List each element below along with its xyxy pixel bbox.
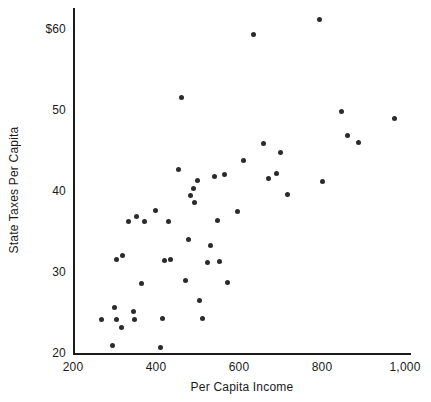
data-point — [320, 179, 325, 184]
data-point — [142, 219, 147, 224]
data-point — [241, 158, 246, 163]
scatter-plot: 20304050$60 State Taxes Per Capita Per C… — [0, 0, 431, 402]
data-point — [166, 219, 171, 224]
y-axis-title: State Taxes Per Capita — [8, 90, 20, 290]
x-axis-tick-label: 600 — [229, 361, 250, 373]
data-point — [158, 345, 163, 350]
data-point — [131, 309, 136, 314]
data-point — [215, 218, 220, 223]
data-point — [356, 140, 361, 145]
data-point — [205, 260, 210, 265]
data-point — [162, 258, 167, 263]
data-point — [217, 259, 222, 264]
x-axis-line — [73, 353, 411, 355]
data-point — [285, 192, 290, 197]
y-axis-line — [73, 8, 75, 355]
data-point — [168, 257, 173, 262]
data-point — [160, 316, 165, 321]
y-axis-tick-label: 20 — [22, 347, 66, 359]
data-point — [225, 280, 230, 285]
y-axis-tick-label: 30 — [22, 266, 66, 278]
data-point — [139, 281, 144, 286]
y-axis-tick-label: 50 — [22, 104, 66, 116]
data-point — [195, 178, 200, 183]
y-axis-tick-label: 40 — [22, 185, 66, 197]
data-point — [208, 243, 213, 248]
data-point — [235, 209, 240, 214]
data-point — [200, 316, 205, 321]
data-point — [392, 116, 397, 121]
data-point — [120, 253, 125, 258]
x-axis-tick-label: 200 — [63, 361, 84, 373]
data-point — [112, 305, 117, 310]
data-point — [186, 237, 191, 242]
data-point — [126, 219, 131, 224]
data-point — [183, 278, 188, 283]
data-point — [153, 208, 158, 213]
data-point — [317, 17, 322, 22]
x-axis-title: Per Capita Income — [73, 381, 411, 393]
data-point — [110, 343, 115, 348]
data-point — [339, 109, 344, 114]
data-point — [251, 32, 256, 37]
x-axis-tick-label: 400 — [146, 361, 167, 373]
data-point — [119, 325, 124, 330]
y-axis-tick-label: $60 — [22, 23, 66, 35]
data-point — [278, 150, 283, 155]
data-point — [266, 176, 271, 181]
data-point — [114, 317, 119, 322]
data-point — [192, 200, 197, 205]
data-point — [176, 167, 181, 172]
data-point — [212, 174, 217, 179]
data-point — [197, 298, 202, 303]
x-axis-tick-label: 800 — [312, 361, 333, 373]
data-point — [188, 193, 193, 198]
data-point — [274, 171, 279, 176]
data-point — [132, 317, 137, 322]
data-point — [179, 95, 184, 100]
data-point — [114, 257, 119, 262]
data-point — [261, 141, 266, 146]
data-point — [99, 317, 104, 322]
data-point — [345, 133, 350, 138]
data-point — [134, 214, 139, 219]
x-axis-tick-label: 1,000 — [389, 361, 420, 373]
data-point — [222, 172, 227, 177]
data-point — [191, 186, 196, 191]
